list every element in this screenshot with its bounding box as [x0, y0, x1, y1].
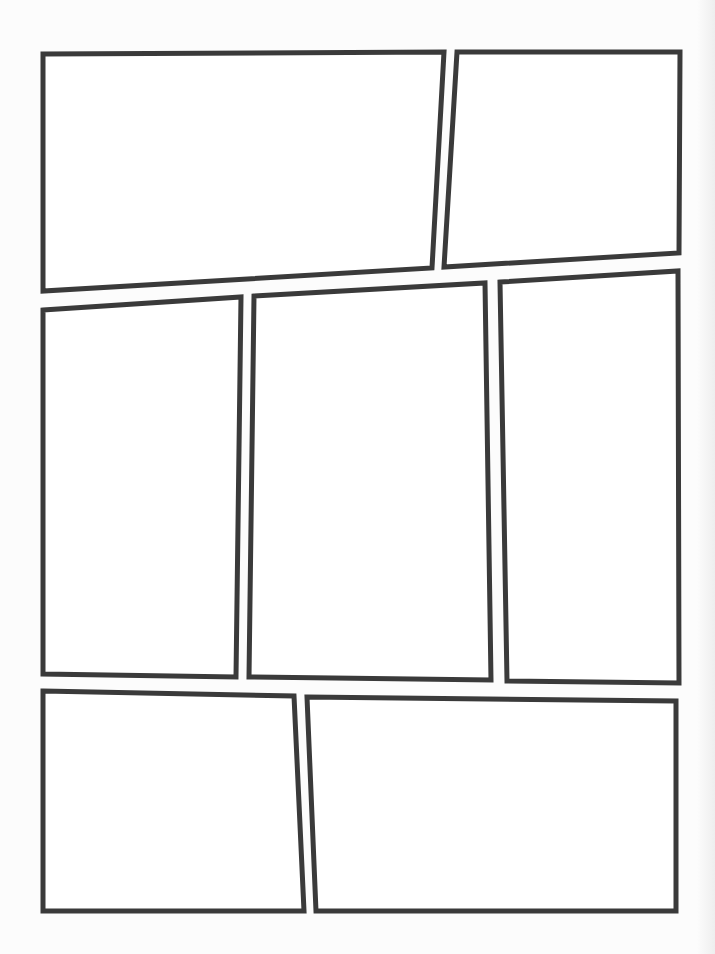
- panel-2: [444, 52, 680, 267]
- panel-1: [43, 52, 444, 291]
- panel-3: [43, 297, 241, 677]
- panel-7: [307, 697, 676, 911]
- comic-page-template: [0, 0, 715, 954]
- panel-5: [500, 271, 679, 683]
- panel-6: [43, 691, 304, 911]
- panel-layout: [0, 0, 715, 954]
- panel-4: [249, 283, 491, 680]
